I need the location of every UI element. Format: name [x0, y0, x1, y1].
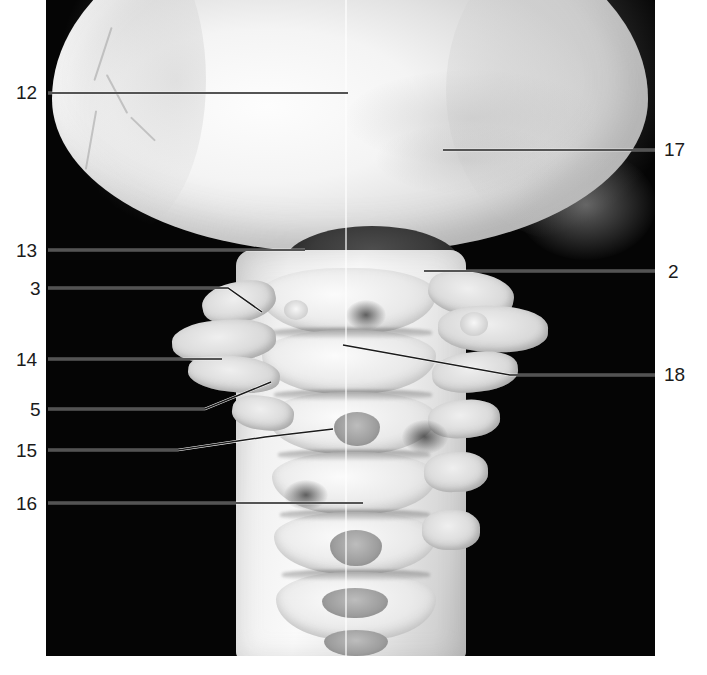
label-14: 14 — [16, 350, 37, 369]
label-5: 5 — [30, 400, 41, 419]
vertebra-c1-body — [260, 268, 436, 334]
articular-facet-right — [460, 312, 488, 336]
label-2: 2 — [668, 262, 679, 281]
label-3: 3 — [30, 279, 41, 298]
intervertebral-gap-3 — [278, 450, 430, 460]
label-13: 13 — [16, 241, 37, 260]
label-16: 16 — [16, 494, 37, 513]
mastoid-region-right — [516, 150, 655, 260]
vertebral-foramen-shadow-3 — [284, 480, 328, 510]
vertebra-c2-body — [262, 330, 436, 394]
intervertebral-gap-5 — [282, 570, 430, 580]
vertebral-foramen-shadow-2 — [402, 420, 448, 454]
articular-facet-left — [284, 300, 308, 320]
anatomical-photograph — [46, 0, 655, 656]
scan-midline — [345, 0, 347, 656]
intervertebral-gap-2 — [274, 390, 432, 400]
label-18: 18 — [664, 365, 685, 384]
vertebral-foramen-shadow-1 — [346, 300, 386, 330]
transverse-process-right-6 — [422, 510, 480, 550]
intervertebral-gap-4 — [280, 510, 430, 520]
intervertebral-gap-1 — [270, 328, 432, 338]
label-12: 12 — [16, 83, 37, 102]
figure-root: 12 17 13 2 3 14 18 5 15 16 — [0, 0, 707, 675]
label-17: 17 — [664, 140, 685, 159]
transverse-process-right-5 — [423, 451, 488, 493]
label-15: 15 — [16, 441, 37, 460]
